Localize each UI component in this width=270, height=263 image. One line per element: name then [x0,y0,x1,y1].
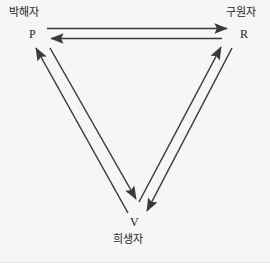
edge-p-to-v [50,48,136,199]
node-label-persecutor-code: P [29,28,36,40]
edge-r-to-v [147,48,232,211]
edge-v-to-p [36,48,128,213]
edge-v-to-r [139,47,221,202]
drama-triangle-diagram: 박해자 P 구원자 R V 희생자 [0,0,270,263]
node-label-rescuer-code: R [240,28,248,40]
node-label-rescuer-name: 구원자 [226,7,257,18]
node-label-victim-name: 희생자 [113,234,144,245]
node-label-victim-code: V [130,216,139,228]
node-label-persecutor-name: 박해자 [9,7,40,18]
